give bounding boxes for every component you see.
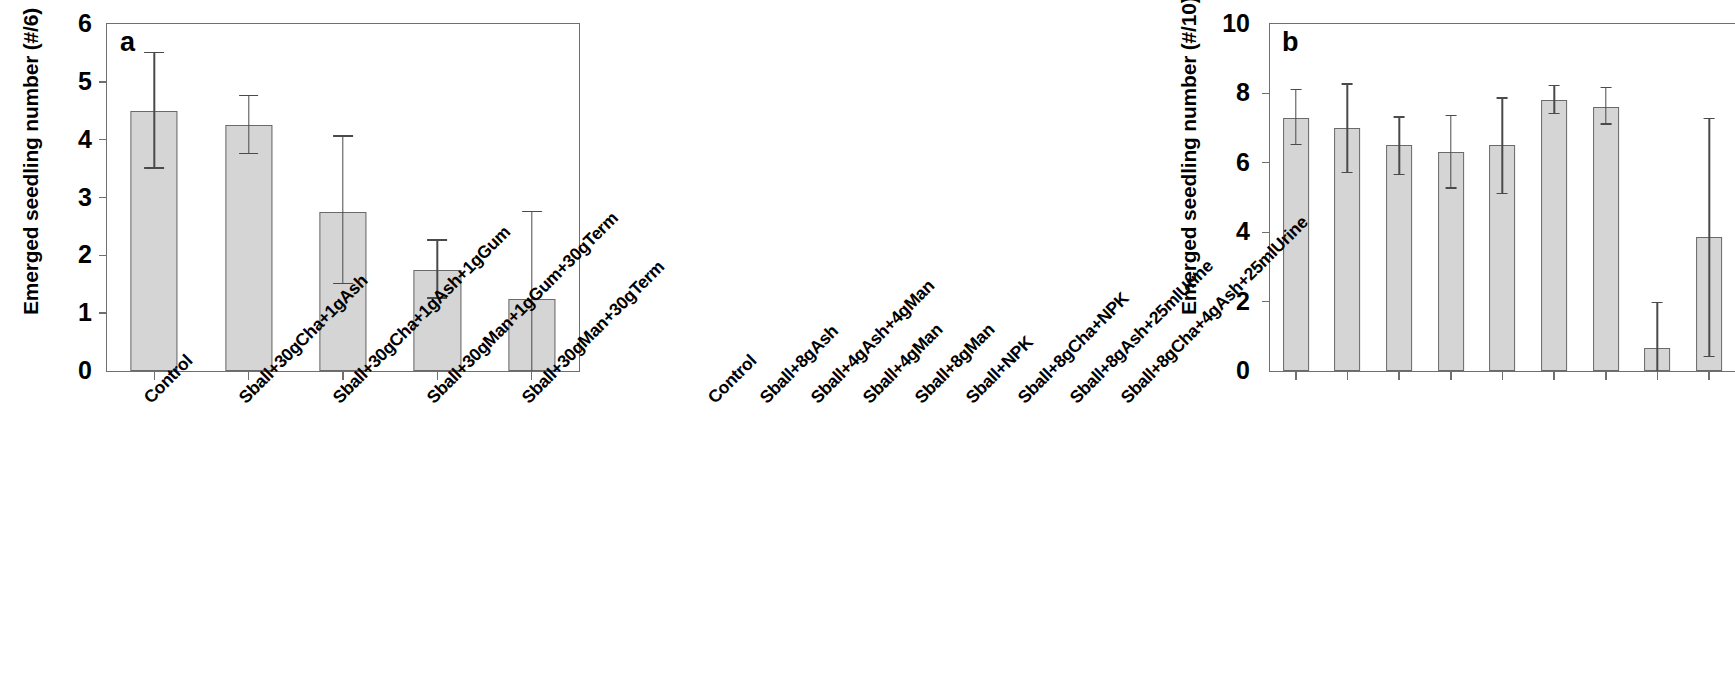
y-axis-tick-mark [1262,232,1270,233]
error-bar-line [1295,90,1296,146]
y-axis-tick-mark [1262,301,1270,302]
x-axis-category-label: Control [140,351,197,408]
x-axis-tick-mark [1553,371,1554,380]
error-bar-cap-upper [1497,97,1508,98]
bar-group [1425,24,1477,371]
error-bar-cap-upper [1342,83,1353,84]
error-bar-line [1398,118,1399,175]
y-axis-tick-label: 8 [1236,78,1250,107]
y-axis-tick-label: 0 [1236,356,1250,385]
error-bar-cap-upper [1600,87,1611,88]
bar-group [1528,24,1580,371]
x-axis-tick-mark [1450,371,1451,380]
y-axis-tick-label: 4 [1236,217,1250,246]
bar-group [1580,24,1632,371]
error-bar-cap-upper [1704,118,1715,119]
error-bar-cap-lower [1394,174,1405,175]
bar [1593,107,1619,371]
error-bar-cap-lower [1549,113,1560,114]
error-bar-cap-upper [1549,85,1560,86]
bar-group [1632,24,1684,371]
plot-area-panel-b [1269,23,1735,372]
error-bar-cap-lower [1497,193,1508,194]
error-bar-line [1502,99,1503,194]
error-bar-cap-lower [1445,187,1456,188]
error-bar-cap-lower [1290,144,1301,145]
bar-group [1322,24,1374,371]
x-axis-tick-mark [1657,371,1658,380]
y-axis-tick-labels-panel-b: 0246810 [1206,0,1250,400]
bar-group [1373,24,1425,371]
panel-b: Emerged seedling number (#/10) 0246810 b… [578,0,1156,693]
bar-group [1683,24,1735,371]
x-axis-tick-mark [1347,371,1348,380]
error-bar-line [1657,303,1658,371]
x-axis-category-label: Sball+30gCha+1gAsh+1gGum [329,222,515,408]
error-bar-cap-lower [1600,123,1611,124]
error-bar-cap-upper [1652,302,1663,303]
panel-a: Emerged seedling number (#/6) 0123456 a … [0,0,578,693]
x-axis-tick-mark [1295,371,1296,380]
panel-letter-b: b [1282,27,1299,58]
y-axis-tick-label: 6 [1236,147,1250,176]
error-bar-cap-upper [1394,116,1405,117]
error-bar-line [1605,88,1606,124]
y-axis-tick-mark [1262,162,1270,163]
bar [1386,145,1412,371]
error-bar-cap-upper [1445,115,1456,116]
bar-group [1477,24,1529,371]
error-bar-line [1708,119,1709,357]
y-axis-tick-label: 10 [1222,9,1250,38]
x-axis-category-labels-panel-a: ControlSball+30gCha+1gAshSball+30gCha+1g… [0,0,578,693]
error-bar-line [1450,116,1451,189]
bar-group [1270,24,1322,371]
x-axis-category-label: Control [703,351,760,408]
bar [1541,100,1567,371]
panel-letter-a: a [120,27,135,58]
error-bar-cap-lower [1342,172,1353,173]
x-axis-tick-mark [1398,371,1399,380]
bar-series-panel-b [1270,24,1735,371]
error-bar-line [1347,85,1348,173]
x-axis-tick-mark [1605,371,1606,380]
error-bar-cap-lower [1704,356,1715,357]
error-bar-line [1553,86,1554,114]
x-axis-tick-mark [1708,371,1709,380]
x-axis-category-labels-panel-b: ControlSball+8gAshSball+4gAsh+4gManSball… [578,0,1156,693]
error-bar-cap-upper [1290,89,1301,90]
x-axis-tick-mark [1502,371,1503,380]
y-axis-tick-mark [1262,93,1270,94]
